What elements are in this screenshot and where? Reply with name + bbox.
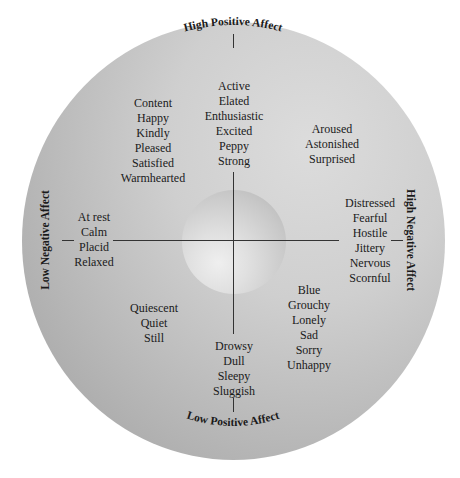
affect-word: Surprised [305, 152, 359, 167]
affect-word: Grouchy [287, 298, 331, 313]
affect-word: Placid [74, 240, 113, 255]
affect-word: Quiescent [130, 301, 178, 316]
affect-word: Unhappy [287, 358, 331, 373]
group-top: ActiveElatedEnthusiasticExcitedPeppyStro… [205, 79, 264, 169]
affect-word: Blue [287, 283, 331, 298]
group-top-right: ArousedAstonishedSurprised [305, 122, 359, 167]
affect-word: Dull [213, 354, 255, 369]
group-left: At restCalmPlacidRelaxed [74, 210, 113, 270]
affect-word: Sluggish [213, 384, 255, 399]
affect-word: Excited [205, 124, 264, 139]
affect-word: Calm [74, 225, 113, 240]
affect-word: Enthusiastic [205, 109, 264, 124]
affect-word: Astonished [305, 137, 359, 152]
affect-word: Quiet [130, 316, 178, 331]
affect-word: Elated [205, 94, 264, 109]
affect-word: Satisfied [121, 156, 185, 171]
affect-word: Lonely [287, 313, 331, 328]
affect-word: Sad [287, 328, 331, 343]
group-bottom-right: BlueGrouchyLonelySadSorryUnhappy [287, 283, 331, 373]
axis-label-high-positive: High Positive Affect [182, 15, 284, 34]
affect-word: Scornful [345, 271, 395, 286]
group-bottom: DrowsyDullSleepySluggish [213, 339, 255, 399]
affect-word: Peppy [205, 139, 264, 154]
affect-word: Content [121, 96, 185, 111]
affect-word: Active [205, 79, 264, 94]
group-top-left: ContentHappyKindlyPleasedSatisfiedWarmhe… [121, 96, 185, 186]
affect-word: Relaxed [74, 255, 113, 270]
affect-word: Nervous [345, 256, 395, 271]
affect-word: Pleased [121, 141, 185, 156]
affect-word: Distressed [345, 196, 395, 211]
affect-word: Aroused [305, 122, 359, 137]
affect-word: Sorry [287, 343, 331, 358]
affect-word: At rest [74, 210, 113, 225]
axis-label-low-positive: Low Positive Affect [186, 409, 281, 428]
affect-word: Happy [121, 111, 185, 126]
group-right: DistressedFearfulHostileJitteryNervousSc… [345, 196, 395, 286]
affect-word: Sleepy [213, 369, 255, 384]
affect-word: Kindly [121, 126, 185, 141]
affect-word: Drowsy [213, 339, 255, 354]
group-bottom-left: QuiescentQuietStill [130, 301, 178, 346]
axis-label-low-negative: Low Negative Affect [39, 190, 52, 290]
affect-word: Still [130, 331, 178, 346]
affect-word: Hostile [345, 226, 395, 241]
affect-word: Warmhearted [121, 171, 185, 186]
axis-label-high-negative: High Negative Affect [404, 189, 417, 291]
affect-word: Fearful [345, 211, 395, 226]
affect-word: Strong [205, 154, 264, 169]
affect-word: Jittery [345, 241, 395, 256]
